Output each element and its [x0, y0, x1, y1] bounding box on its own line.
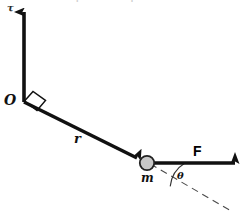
mass-label: m [141, 172, 154, 184]
tau-label: τ [7, 3, 14, 13]
figure-title: Torque about a point [58, 0, 155, 2]
torque-diagram-figure: Torque about a point τ O r m F θ [0, 0, 251, 214]
origin-label: O [4, 93, 16, 107]
diagram-canvas [0, 0, 251, 214]
r-label: r [74, 132, 81, 145]
mass-point-circle [140, 156, 154, 170]
r-vector-arrow [24, 102, 137, 158]
force-label: F [193, 144, 202, 158]
theta-label: θ [177, 171, 184, 181]
